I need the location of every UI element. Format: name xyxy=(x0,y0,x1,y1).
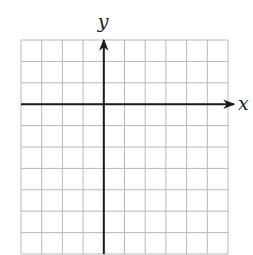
x-axis-label: x xyxy=(238,92,249,114)
grid-lines xyxy=(21,40,228,254)
coordinate-grid-diagram: x y xyxy=(0,0,253,255)
y-axis-label: y xyxy=(97,10,109,32)
